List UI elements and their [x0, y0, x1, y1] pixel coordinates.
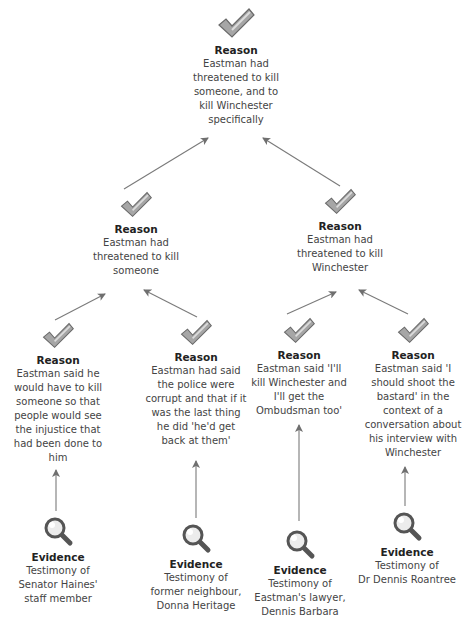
reason-title: Reason	[358, 349, 468, 362]
reason-title: Reason	[78, 223, 194, 236]
reason-text: Eastman said 'I'll kill Winchester and I…	[242, 362, 356, 418]
checkmark-icon	[396, 316, 430, 345]
reason-text: Eastman said he would have to kill someo…	[8, 367, 108, 465]
checkmark-icon	[119, 190, 153, 219]
arrow-left-to-root	[124, 138, 208, 189]
reason-node-4: Reason Eastman said 'I should shoot the …	[358, 316, 468, 460]
evidence-node-3: Evidence Testimony of Eastman's lawyer, …	[246, 528, 354, 619]
reason-text: Eastman had threatened to kill Wincheste…	[282, 233, 398, 275]
evidence-title: Evidence	[352, 546, 462, 559]
arrow-reason4-to-right	[359, 290, 408, 314]
arrow-reason1-to-left	[55, 294, 105, 320]
evidence-node-1: Evidence Testimony of Senator Haines' st…	[8, 515, 108, 606]
magnifier-icon	[391, 510, 423, 542]
reason-node-1: Reason Eastman said he would have to kil…	[8, 321, 108, 465]
evidence-title: Evidence	[144, 558, 248, 571]
checkmark-icon	[282, 316, 316, 345]
arrow-reason2-to-left	[144, 290, 197, 317]
arrow-right-to-root	[263, 138, 340, 186]
reason-title: Reason	[242, 349, 356, 362]
checkmark-icon	[323, 187, 357, 216]
right-reason-node: Reason Eastman had threatened to kill Wi…	[282, 187, 398, 275]
checkmark-icon	[179, 318, 213, 347]
evidence-node-2: Evidence Testimony of former neighbour, …	[144, 522, 248, 613]
evidence-text: Testimony of Eastman's lawyer, Dennis Ba…	[246, 577, 354, 619]
checkmark-icon	[41, 321, 75, 350]
evidence-title: Evidence	[8, 551, 108, 564]
reason-title: Reason	[140, 351, 252, 364]
evidence-text: Testimony of former neighbour, Donna Her…	[144, 571, 248, 613]
reason-title: Reason	[8, 354, 108, 367]
reason-title: Reason	[282, 220, 398, 233]
evidence-node-4: Evidence Testimony of Dr Dennis Roantree	[352, 510, 462, 587]
reason-text: Eastman had threatened to kill someone, …	[176, 57, 296, 127]
arrow-reason3-to-right	[287, 292, 336, 314]
reason-node-2: Reason Eastman had said the police were …	[140, 318, 252, 448]
magnifier-icon	[42, 515, 74, 547]
left-reason-node: Reason Eastman had threatened to kill so…	[78, 190, 194, 278]
reason-text: Eastman said 'I should shoot the bastard…	[358, 362, 468, 460]
evidence-title: Evidence	[246, 564, 354, 577]
magnifier-icon	[284, 528, 316, 560]
evidence-text: Testimony of Dr Dennis Roantree	[352, 559, 462, 587]
evidence-text: Testimony of Senator Haines' staff membe…	[8, 564, 108, 606]
root-reason-node: Reason Eastman had threatened to kill so…	[176, 6, 296, 127]
magnifier-icon	[180, 522, 212, 554]
reason-text: Eastman had said the police were corrupt…	[140, 364, 252, 448]
reason-text: Eastman had threatened to kill someone	[78, 236, 194, 278]
checkmark-icon	[216, 6, 256, 40]
reason-node-3: Reason Eastman said 'I'll kill Wincheste…	[242, 316, 356, 418]
reason-title: Reason	[176, 44, 296, 57]
